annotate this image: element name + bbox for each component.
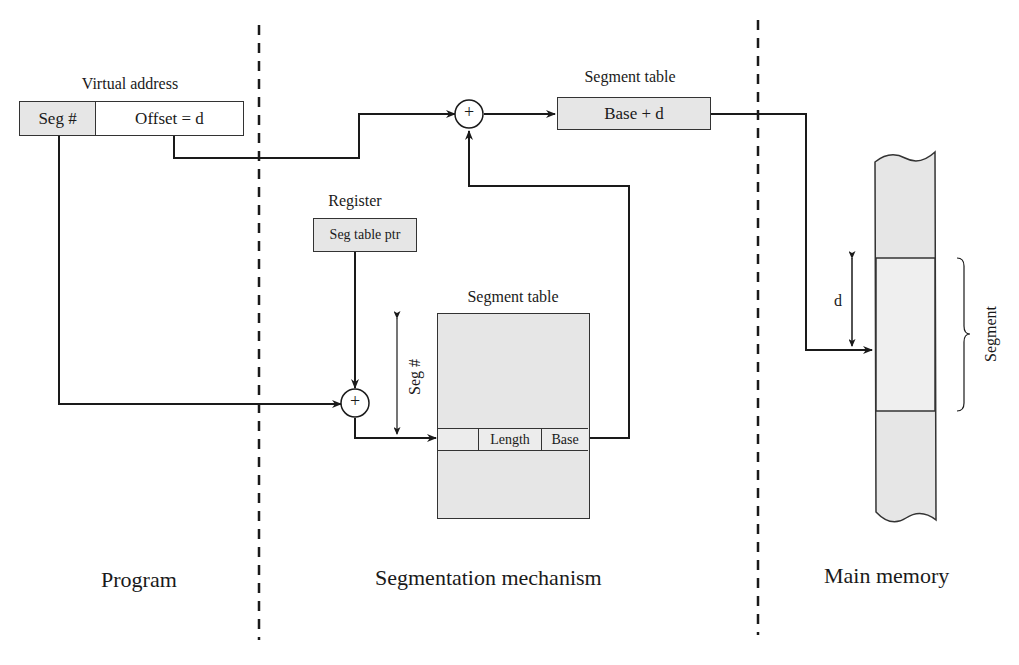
segment-table-title: Segment table xyxy=(443,288,583,306)
seg-number-field-label: Seg # xyxy=(38,109,76,129)
seg-index-label: Seg # xyxy=(406,352,424,402)
offset-field: Offset = d xyxy=(95,101,244,136)
seg-number-field: Seg # xyxy=(19,101,96,136)
entry-length-cell: Length xyxy=(479,429,542,450)
base-plus-d-label: Base + d xyxy=(604,104,664,124)
seg-table-ptr-label: Seg table ptr xyxy=(330,227,401,243)
segmentation-mechanism-section-label: Segmentation mechanism xyxy=(375,565,602,591)
memory-offset-label: d xyxy=(830,292,846,310)
entry-base-cell: Base xyxy=(542,429,588,450)
seg-table-ptr-register: Seg table ptr xyxy=(313,218,417,252)
main-memory-section-label: Main memory xyxy=(824,563,949,589)
adder-top-symbol: + xyxy=(460,102,478,123)
base-plus-d-box: Base + d xyxy=(557,97,711,130)
offset-field-label: Offset = d xyxy=(135,109,204,129)
entry-blank-cell xyxy=(438,429,479,450)
segment-table: Length Base xyxy=(437,313,590,519)
segment-table-entry: Length Base xyxy=(438,428,588,451)
segment-brace xyxy=(957,258,970,411)
adder-bottom-symbol: + xyxy=(346,391,364,412)
program-section-label: Program xyxy=(101,567,177,593)
segment-label: Segment xyxy=(982,294,1000,374)
register-title: Register xyxy=(305,192,405,210)
result-segment-table-title: Segment table xyxy=(560,68,700,86)
virtual-address-title: Virtual address xyxy=(60,75,200,93)
